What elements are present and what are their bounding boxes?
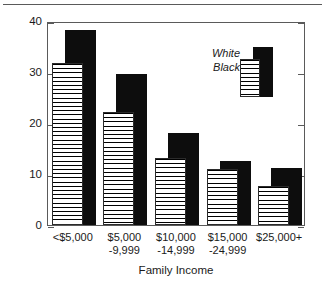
bar-white: [207, 169, 238, 225]
legend-swatch-white: [240, 59, 260, 97]
x-axis-title: Family Income: [47, 264, 305, 276]
figure-canvas: Percent with Limitations 010203040 <$5,0…: [0, 0, 325, 287]
chart-legend: White Black: [196, 47, 282, 103]
x-tick-label: $15,000-24,999: [202, 231, 254, 256]
bar-white: [258, 186, 289, 225]
y-tick-mark-left: [48, 23, 54, 24]
bar-white: [52, 63, 83, 225]
x-tick-label: <$5,000: [47, 231, 99, 244]
y-tick-mark-right: [298, 23, 304, 24]
bar-group: [103, 23, 147, 225]
bar-group: [155, 23, 199, 225]
y-tick-label: 0: [36, 220, 42, 232]
legend-label-group: White Black: [212, 47, 240, 74]
bar-white: [155, 158, 186, 225]
y-axis-title: Percent with Limitations: [8, 0, 24, 38]
legend-label-white: White: [212, 47, 240, 61]
y-tick-mark-left: [48, 227, 54, 228]
y-tick-mark-right: [298, 74, 304, 75]
legend-label-black: Black: [212, 61, 240, 75]
y-tick-label: 40: [29, 16, 42, 28]
y-tick-mark-right: [298, 125, 304, 126]
x-tick-label: $25,000+: [253, 231, 305, 244]
x-tick-label: $5,000-9,999: [99, 231, 151, 256]
y-tick-label: 10: [29, 169, 42, 181]
figure-top-rule: [3, 4, 322, 5]
x-tick-label: $10,000-14,999: [150, 231, 202, 256]
bar-white: [103, 112, 134, 225]
y-tick-label: 30: [29, 67, 42, 79]
legend-swatch-pair: [240, 47, 274, 97]
y-tick-mark-right: [298, 227, 304, 228]
bar-group: [52, 23, 96, 225]
y-tick-label: 20: [29, 118, 42, 130]
